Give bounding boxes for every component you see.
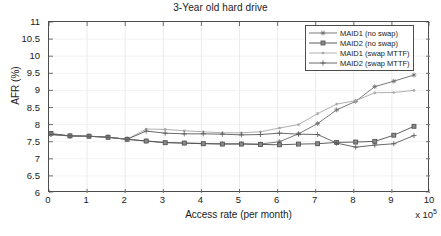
x-tick-label: 4 <box>198 194 203 205</box>
y-tick-label: 6.5 <box>27 169 40 180</box>
x-axis-tick-labels: 012345678910 <box>48 194 429 208</box>
x-tick-label: 6 <box>274 194 279 205</box>
x-axis-multiplier: x 105 <box>415 208 437 220</box>
chart-figure: 3-Year old hard drive 66.577.588.599.510… <box>0 0 441 236</box>
y-tick-label: 6 <box>35 187 40 198</box>
legend-label: MAID2 (no swap) <box>338 39 398 48</box>
x-tick-label: 7 <box>312 194 317 205</box>
data-series <box>50 89 416 141</box>
y-tick-label: 7.5 <box>27 135 40 146</box>
x-tick-label: 1 <box>83 194 88 205</box>
x-tick-label: 10 <box>424 194 435 205</box>
y-tick-label: 10.5 <box>22 33 41 44</box>
y-tick-label: 9.5 <box>27 67 40 78</box>
legend-marker-icon <box>308 48 338 58</box>
chart-legend[interactable]: MAID1 (no swap)MAID2 (no swap)MAID1 (swa… <box>305 25 414 71</box>
x-tick-label: 9 <box>388 194 393 205</box>
chart-title: 3-Year old hard drive <box>0 2 441 13</box>
legend-marker-icon <box>308 58 338 68</box>
legend-item[interactable]: MAID2 (no swap) <box>308 38 410 48</box>
legend-label: MAID1 (no swap) <box>338 29 398 38</box>
data-series <box>49 128 417 149</box>
y-tick-label: 11 <box>30 16 40 27</box>
legend-marker-icon <box>308 28 338 38</box>
y-tick-label: 7 <box>35 152 40 163</box>
y-tick-label: 9 <box>35 84 40 95</box>
legend-label: MAID1 (swap MTTF) <box>338 49 410 58</box>
x-tick-label: 2 <box>122 194 127 205</box>
data-series <box>49 73 416 147</box>
x-tick-label: 5 <box>236 194 241 205</box>
y-axis-tick-labels: 66.577.588.599.51010.511 <box>0 21 45 192</box>
y-tick-label: 8.5 <box>27 101 40 112</box>
y-tick-label: 8 <box>35 118 40 129</box>
x-tick-label: 8 <box>350 194 355 205</box>
legend-item[interactable]: MAID1 (swap MTTF) <box>308 48 410 58</box>
x-tick-label: 3 <box>160 194 165 205</box>
y-axis-label: AFR (%) <box>10 41 21 131</box>
legend-item[interactable]: MAID1 (no swap) <box>308 28 410 38</box>
x-axis-label: Access rate (per month) <box>48 209 429 220</box>
x-tick-label: 0 <box>45 194 50 205</box>
y-tick-label: 10 <box>29 50 40 61</box>
legend-label: MAID2 (swap MTTF) <box>338 59 410 68</box>
legend-marker-icon <box>308 38 338 48</box>
legend-item[interactable]: MAID2 (swap MTTF) <box>308 58 410 68</box>
